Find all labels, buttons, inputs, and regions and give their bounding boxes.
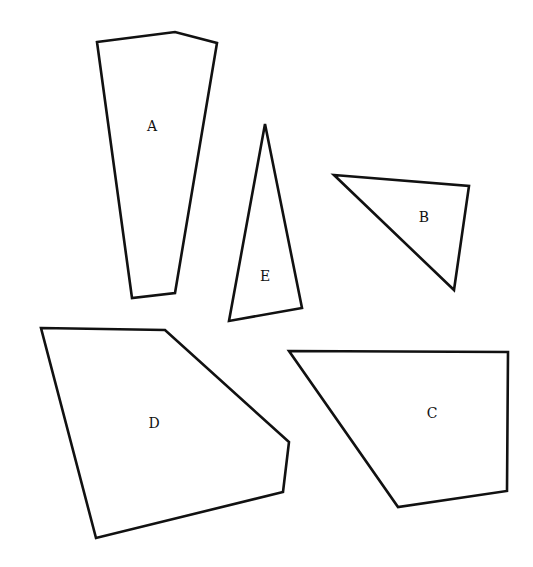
shape-b: B <box>334 175 469 290</box>
shape-a-polygon <box>97 32 217 298</box>
shape-b-label: B <box>419 209 429 225</box>
shape-d-label: D <box>148 415 159 431</box>
shape-d-polygon <box>41 328 289 538</box>
shapes-diagram: A E B D C <box>0 0 533 567</box>
shape-c-polygon <box>289 351 508 507</box>
shape-c-label: C <box>427 405 438 421</box>
shape-d: D <box>41 328 289 538</box>
shape-e-label: E <box>260 268 270 284</box>
shape-a-label: A <box>146 118 158 134</box>
shape-b-polygon <box>334 175 469 290</box>
shape-a: A <box>97 32 217 298</box>
shape-e: E <box>229 124 302 321</box>
shape-c: C <box>289 351 508 507</box>
shape-e-polygon <box>229 124 302 321</box>
